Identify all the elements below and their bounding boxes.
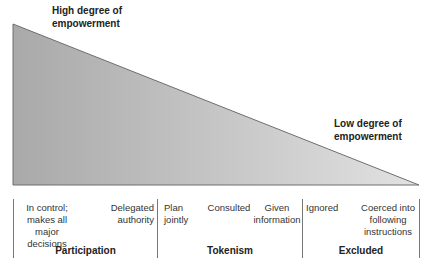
low-empowerment-label: Low degree of empowerment xyxy=(334,117,402,143)
item-line: Plan xyxy=(164,202,204,214)
item-line: authority xyxy=(108,214,154,226)
item-consulted: Consulted xyxy=(206,202,252,214)
item-line: Given xyxy=(253,202,301,214)
item-line: Delegated xyxy=(108,202,154,214)
item-line: jointly xyxy=(164,214,204,226)
item-coerced: Coerced into following instructions xyxy=(358,202,418,238)
item-plan-jointly: Plan jointly xyxy=(164,202,204,226)
item-line: information xyxy=(253,214,301,226)
item-line: Consulted xyxy=(206,202,252,214)
high-label-line1: High degree of xyxy=(52,4,122,17)
item-delegated-authority: Delegated authority xyxy=(108,202,154,226)
low-label-line1: Low degree of xyxy=(334,117,402,130)
item-line: Coerced into xyxy=(358,202,418,214)
group-tokenism: Tokenism xyxy=(158,245,302,257)
group-participation: Participation xyxy=(14,245,157,257)
item-line: instructions xyxy=(358,226,418,238)
high-empowerment-label: High degree of empowerment xyxy=(52,4,122,30)
item-ignored: Ignored xyxy=(306,202,351,214)
item-line: Ignored xyxy=(306,202,351,214)
item-line: In control; xyxy=(15,202,79,214)
item-in-control: In control; makes all major decisions xyxy=(15,202,79,250)
empowerment-wedge xyxy=(0,0,435,200)
group-excluded: Excluded xyxy=(303,245,419,257)
divider-right xyxy=(419,199,420,258)
item-given-information: Given information xyxy=(253,202,301,226)
item-line: following xyxy=(358,214,418,226)
high-label-line2: empowerment xyxy=(52,17,122,30)
item-line: makes all xyxy=(15,214,79,226)
low-label-line2: empowerment xyxy=(334,130,402,143)
